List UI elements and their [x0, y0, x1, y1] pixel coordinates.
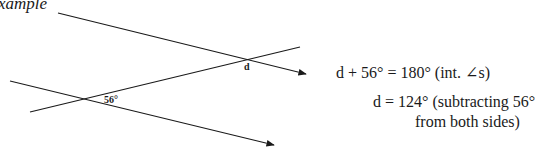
equation-line-3: from both sides) [415, 113, 520, 131]
angle-56-label: 56° [104, 94, 118, 105]
equation-line-2: d = 124° (subtracting 56° [373, 93, 535, 111]
angle-d-label: d [244, 61, 250, 72]
equation-line-1: d + 56° = 180° (int. ∠s) [336, 63, 490, 82]
upper-parallel-line [58, 13, 306, 74]
transversal-line [30, 47, 300, 112]
lower-parallel-line [10, 81, 274, 145]
